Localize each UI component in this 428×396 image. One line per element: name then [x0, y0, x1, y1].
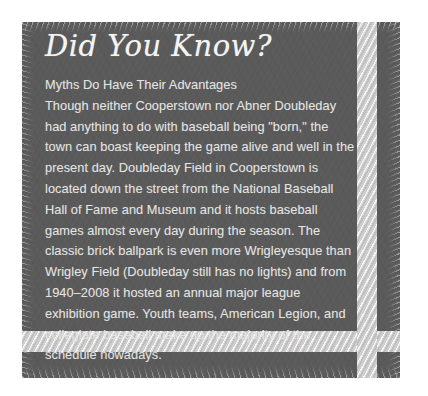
card-subheading: Myths Do Have Their Advantages	[45, 75, 357, 96]
did-you-know-card: Did You Know? Myths Do Have Their Advant…	[22, 22, 400, 378]
card-content: Did You Know? Myths Do Have Their Advant…	[45, 28, 357, 366]
card-title: Did You Know?	[45, 28, 357, 64]
card-body: Myths Do Have Their AdvantagesThough nei…	[45, 75, 357, 366]
chalk-stripe-vertical	[357, 22, 377, 378]
page-canvas: Did You Know? Myths Do Have Their Advant…	[0, 0, 428, 396]
chalk-edge-bottom	[22, 365, 400, 378]
card-paragraph: Though neither Cooperstown nor Abner Dou…	[45, 98, 354, 363]
chalk-edge-right	[386, 22, 400, 378]
chalk-edge-left	[22, 22, 34, 378]
